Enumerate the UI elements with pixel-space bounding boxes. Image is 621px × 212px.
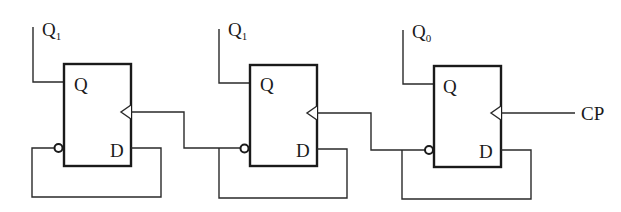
counter-circuit-diagram: Q1 Q D Q1 Q D Q0 Q D CP xyxy=(0,0,621,212)
ff2-ff3-clock-chain-wire xyxy=(317,113,428,150)
ff1-d-pin-label: D xyxy=(110,140,124,161)
ff1-q-pin-label: Q xyxy=(74,74,88,95)
flip-flop-2: Q1 Q D xyxy=(219,19,347,198)
ff2-q-pin-label: Q xyxy=(260,74,274,95)
flip-flop-3: Q0 Q D xyxy=(402,21,531,199)
ff3-output-label: Q0 xyxy=(412,21,432,44)
ff3-q-pin-label: Q xyxy=(443,76,457,97)
ff3-inverted-output-bubble-icon xyxy=(425,146,433,154)
ff2-output-label: Q1 xyxy=(228,19,247,42)
ff2-d-pin-label: D xyxy=(296,140,310,161)
flip-flop-1: Q1 Q D xyxy=(32,19,161,197)
ff3-d-pin-label: D xyxy=(479,141,493,162)
ff1-ff2-clock-chain-wire xyxy=(131,112,243,148)
ff1-inverted-output-bubble-icon xyxy=(55,144,63,152)
cp-label: CP xyxy=(581,103,604,124)
ff1-output-label: Q1 xyxy=(42,19,61,42)
ff2-inverted-output-bubble-icon xyxy=(241,145,249,153)
